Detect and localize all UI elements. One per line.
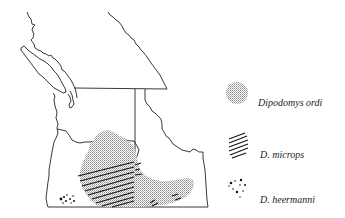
legend-label-dipodomys-ordi: Dipodomys ordi: [258, 97, 322, 108]
range-dipodomys-ordi: [80, 130, 194, 207]
stipple-circle-icon: [226, 82, 248, 104]
scattered-dots-icon: [228, 179, 246, 198]
id-east-border: [203, 158, 208, 207]
canada-us-border: [74, 88, 167, 89]
diagonal-hatch-icon: [229, 133, 248, 158]
legend-label-d-heermanni: D. heermanni: [260, 194, 315, 205]
wa-coast: [46, 93, 58, 207]
bc-alberta-border: [108, 12, 167, 89]
range-d-heermanni: [60, 194, 75, 204]
range-map: [0, 0, 345, 218]
puget-sound: [68, 91, 74, 108]
id-mt-border: [145, 89, 203, 158]
legend-label-d-microps: D. microps: [260, 149, 304, 160]
